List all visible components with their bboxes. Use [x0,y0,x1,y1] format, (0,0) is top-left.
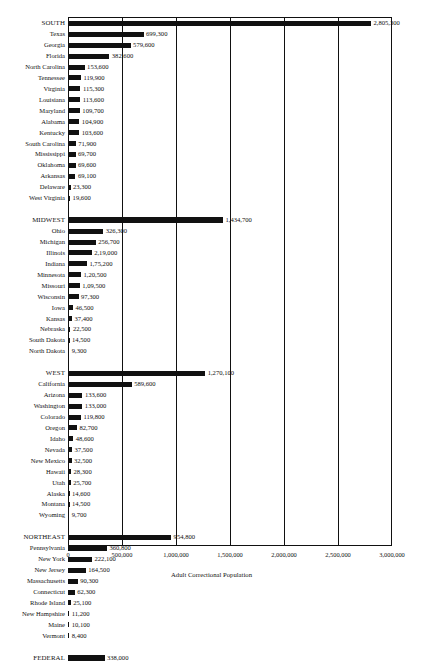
state-row[interactable]: Wyoming9,700 [0,510,423,521]
bar[interactable] [68,415,81,420]
state-row[interactable]: South Dakota14,500 [0,335,423,346]
bar[interactable] [68,655,105,661]
state-row[interactable]: Minnesota1,20,500 [0,270,423,281]
state-row[interactable]: North Carolina153,600 [0,62,423,73]
state-row[interactable]: Wisconsin97,300 [0,292,423,303]
bar[interactable] [68,393,82,398]
bar[interactable] [68,447,72,452]
bar[interactable] [68,371,205,377]
bar[interactable] [68,469,71,474]
region-row[interactable]: NORTHEAST954,800 [0,532,423,543]
bar[interactable] [68,152,76,157]
state-row[interactable]: Mississippi69,700 [0,149,423,160]
bar[interactable] [68,305,73,310]
bar[interactable] [68,458,72,463]
bar[interactable] [68,32,144,37]
bar[interactable] [68,491,70,496]
state-row[interactable]: Arizona133,600 [0,390,423,401]
bar[interactable] [68,54,109,59]
bar[interactable] [68,272,81,277]
state-row[interactable]: Iowa46,500 [0,303,423,314]
bar[interactable] [68,327,70,332]
bar[interactable] [68,196,70,201]
bar[interactable] [68,579,78,584]
bar[interactable] [68,633,69,638]
bar[interactable] [68,622,69,627]
state-row[interactable]: New Mexico32,500 [0,456,423,467]
bar[interactable] [68,217,223,223]
bar[interactable] [68,119,79,124]
state-row[interactable]: Oklahoma69,600 [0,160,423,171]
state-row[interactable]: Texas699,300 [0,29,423,40]
state-row[interactable]: Nebraska22,500 [0,324,423,335]
region-row[interactable]: SOUTH2,805,300 [0,18,423,29]
state-row[interactable]: Delaware23,300 [0,182,423,193]
state-row[interactable]: Arkansas69,100 [0,171,423,182]
bar[interactable] [68,21,371,27]
region-row[interactable]: MIDWEST1,434,700 [0,215,423,226]
state-row[interactable]: Vermont8,400 [0,631,423,642]
state-row[interactable]: Georgia579,600 [0,40,423,51]
state-row[interactable]: Montana14,500 [0,499,423,510]
state-row[interactable]: Michigan256,700 [0,237,423,248]
bar[interactable] [68,316,72,321]
region-row[interactable]: WEST1,270,100 [0,368,423,379]
state-row[interactable]: South Carolina71,900 [0,139,423,150]
bar[interactable] [68,65,85,70]
bar[interactable] [68,425,77,430]
state-row[interactable]: Alabama104,900 [0,117,423,128]
state-row[interactable]: Missouri1,09,500 [0,281,423,292]
bar[interactable] [68,229,103,234]
state-row[interactable]: Kentucky103,600 [0,128,423,139]
state-row[interactable]: Maryland109,700 [0,106,423,117]
bar[interactable] [68,174,75,179]
state-row[interactable]: Colorado119,800 [0,412,423,423]
state-row[interactable]: Virginia115,300 [0,84,423,95]
state-row[interactable]: Rhode Island25,100 [0,598,423,609]
bar[interactable] [68,141,76,146]
state-row[interactable]: Illinois2,19,000 [0,248,423,259]
state-row[interactable]: Idaho48,600 [0,434,423,445]
bar[interactable] [68,436,73,441]
bar[interactable] [68,283,80,288]
bar[interactable] [68,404,82,409]
state-row[interactable]: Nevada37,500 [0,445,423,456]
state-row[interactable]: West Virginia19,600 [0,193,423,204]
state-row[interactable]: Oregon82,700 [0,423,423,434]
bar[interactable] [68,349,69,354]
state-row[interactable]: Alaska14,600 [0,489,423,500]
state-row[interactable]: Tennessee119,900 [0,73,423,84]
bar[interactable] [68,513,69,518]
bar[interactable] [68,163,76,168]
bar[interactable] [68,75,81,80]
bar[interactable] [68,294,79,299]
bar[interactable] [68,130,79,135]
bar[interactable] [68,611,69,616]
bar[interactable] [68,480,71,485]
state-row[interactable]: California589,600 [0,379,423,390]
region-row[interactable]: FEDERAL338,000 [0,653,423,664]
bar[interactable] [68,97,80,102]
bar[interactable] [68,240,96,245]
state-row[interactable]: Kansas37,400 [0,314,423,325]
bar[interactable] [68,382,132,387]
bar[interactable] [68,261,87,266]
state-row[interactable]: Indiana1,75,200 [0,259,423,270]
bar[interactable] [68,250,92,255]
bar[interactable] [68,338,70,343]
state-row[interactable]: Florida382,600 [0,51,423,62]
bar[interactable] [68,535,171,541]
state-row[interactable]: North Dakota9,300 [0,346,423,357]
state-row[interactable]: Washington133,000 [0,401,423,412]
bar[interactable] [68,185,71,190]
bar[interactable] [68,108,80,113]
state-row[interactable]: New Hampshire11,200 [0,609,423,620]
state-row[interactable]: Utah25,700 [0,478,423,489]
state-row[interactable]: Hawaii28,300 [0,467,423,478]
bar[interactable] [68,600,71,605]
state-row[interactable]: Maine10,100 [0,620,423,631]
bar[interactable] [68,43,131,48]
bar[interactable] [68,502,70,507]
state-row[interactable]: Louisiana113,600 [0,95,423,106]
state-row[interactable]: Ohio326,300 [0,226,423,237]
